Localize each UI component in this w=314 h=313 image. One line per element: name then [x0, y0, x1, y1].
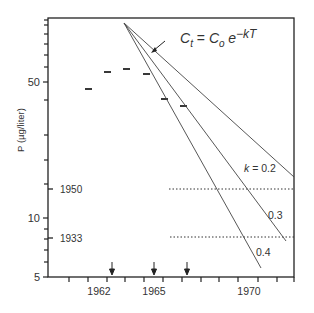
label-k-0.2: k = 0.2 — [244, 162, 276, 174]
x-axis-ticks — [69, 277, 294, 282]
x-tick-label-1965: 1965 — [142, 285, 166, 297]
label-k-0.3: 0.3 — [268, 209, 283, 221]
decay-line-k-0.3 — [124, 23, 286, 241]
x-tick-label-1970: 1970 — [237, 285, 261, 297]
y-tick-label-5: 5 — [34, 271, 40, 283]
y-tick-label-50: 50 — [28, 76, 40, 88]
x-tick-label-1962: 1962 — [87, 285, 111, 297]
label-k-0.4: 0.4 — [256, 246, 271, 258]
decay-line-k-0.2 — [124, 23, 294, 177]
y-axis-ticks — [43, 20, 48, 277]
plot-frame — [48, 18, 294, 277]
decay-chart: 5 10 50 P (µg/liter) 1950 1933 1962 1965… — [0, 0, 314, 313]
event-arrows — [110, 262, 190, 275]
ref-label-1933: 1933 — [60, 233, 83, 244]
decay-line-k-0.4 — [124, 23, 261, 268]
y-axis-title: P (µg/liter) — [15, 108, 26, 152]
ref-label-1950: 1950 — [60, 184, 83, 195]
y-tick-label-10: 10 — [28, 212, 40, 224]
label-k-0.2-text: = 0.2 — [249, 162, 276, 174]
equation-label: Ct = Co e−kT — [180, 27, 258, 49]
